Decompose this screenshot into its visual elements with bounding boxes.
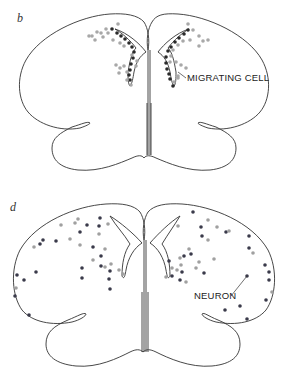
dark-cell-dot (202, 271, 206, 275)
light-cell-dot (103, 265, 107, 269)
light-cell-dot (76, 217, 80, 221)
dark-cell-dot (91, 245, 95, 249)
dark-cell-dot (15, 273, 19, 277)
ventricle-right-b (158, 29, 189, 86)
light-cell-dot (206, 38, 210, 42)
dark-cell-dot (238, 304, 242, 308)
dark-cell-dot (168, 77, 172, 81)
dark-cell-dot (34, 270, 38, 274)
light-cell-dot (171, 48, 175, 52)
dark-cell-dot (167, 72, 171, 76)
light-cell-dot (118, 66, 122, 70)
dark-cell-dot (97, 224, 101, 228)
midline-d (142, 240, 148, 352)
light-cell-dot (188, 38, 192, 42)
light-cell-dot (122, 64, 126, 68)
panel-letter-b: b (17, 11, 23, 25)
light-cell-dot (179, 263, 183, 267)
dark-cell-dot (178, 278, 182, 282)
light-cell-dot (87, 34, 91, 38)
dark-cell-dot (27, 313, 31, 317)
dark-cell-dot (129, 62, 133, 66)
dark-cell-dot (189, 252, 193, 256)
light-cell-dot (164, 275, 168, 279)
light-cell-dot (172, 80, 176, 84)
light-cell-dot (178, 256, 182, 260)
light-cell-dot (168, 60, 172, 64)
dark-cell-dot (130, 45, 134, 49)
light-cell-dot (101, 35, 105, 39)
dark-cell-dot (169, 45, 173, 49)
light-cell-dot (125, 78, 129, 82)
dark-cell-dot (85, 223, 89, 227)
light-cell-dot (169, 54, 173, 58)
dark-cell-dot (182, 32, 186, 36)
ventricle-left-b (115, 29, 146, 86)
dark-cell-dot (170, 274, 174, 278)
light-cell-dot (78, 243, 82, 247)
dark-cell-dot (22, 278, 26, 282)
light-cell-dot (206, 218, 210, 222)
dark-cell-dot (107, 277, 111, 281)
light-cell-dot (116, 22, 120, 26)
dark-cell-dot (38, 242, 42, 246)
dark-cell-dot (200, 234, 204, 238)
light-cell-dot (212, 257, 216, 261)
dark-cell-dot (199, 225, 203, 229)
dark-cell-dot (180, 270, 184, 274)
light-cell-dot (197, 260, 201, 264)
light-cell-dot (186, 22, 190, 26)
dark-cell-dot (263, 263, 267, 267)
dark-cell-dot (119, 34, 123, 38)
light-cell-dot (117, 71, 121, 75)
dark-cell-dot (127, 41, 131, 45)
light-cell-dot (117, 268, 121, 272)
dark-cell-dot (164, 55, 168, 59)
dark-cell-dot (110, 27, 114, 31)
light-cell-dot (176, 43, 180, 47)
light-cell-dot (104, 27, 108, 31)
light-cell-dot (129, 83, 133, 87)
light-cell-dot (103, 247, 107, 251)
light-cell-dot (68, 237, 72, 241)
midline-b (147, 50, 151, 155)
dark-cell-dot (264, 298, 268, 302)
brain-outline-b (19, 14, 268, 171)
dark-cell-dot (167, 259, 171, 263)
dark-cell-dot (267, 278, 271, 282)
light-cell-dot (73, 221, 77, 225)
dark-cell-dot (108, 287, 112, 291)
dark-cell-dot (223, 308, 227, 312)
dark-cell-dot (78, 230, 82, 234)
dark-cell-dot (177, 36, 181, 40)
migrating-cell-label: MIGRATING CELL (187, 72, 269, 83)
light-cell-dot (176, 224, 180, 228)
light-cell-dot (114, 63, 118, 67)
light-cell-dot (197, 44, 201, 48)
light-cell-dot (215, 225, 219, 229)
panel-letter-d: d (10, 200, 17, 214)
dark-cell-dot (98, 216, 102, 220)
dark-cell-dot (41, 238, 45, 242)
light-cell-dot (32, 245, 36, 249)
dark-cell-dot (164, 61, 168, 65)
dark-cell-dot (13, 294, 17, 298)
light-cell-dot (184, 280, 188, 284)
light-cell-dot (135, 59, 139, 63)
dark-cell-dot (127, 73, 131, 77)
light-cell-dot (227, 229, 231, 233)
dark-cell-dot (191, 210, 195, 214)
dark-cell-dot (173, 40, 177, 44)
light-cell-dot (95, 30, 99, 34)
light-cell-dot (187, 247, 191, 251)
light-cell-dot (197, 34, 201, 38)
dark-cell-dot (99, 254, 103, 258)
dark-cell-dot (186, 28, 190, 32)
light-cell-dot (106, 222, 110, 226)
ventricle-right-d (150, 216, 180, 278)
panel-d: d NEURON (10, 200, 275, 366)
light-cell-dot (174, 60, 178, 64)
light-cell-dot (175, 268, 179, 272)
dark-cell-dot (54, 239, 58, 243)
dark-cell-dot (165, 67, 169, 71)
